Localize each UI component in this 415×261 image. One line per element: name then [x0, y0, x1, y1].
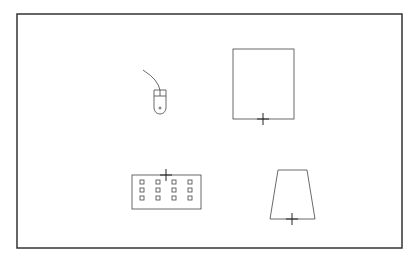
- keyboard-keys: [140, 180, 192, 200]
- diagram-canvas: [0, 0, 415, 261]
- crosshair-marker-icon: [160, 169, 172, 181]
- mouse-icon[interactable]: [143, 70, 166, 114]
- crosshair-marker-icon: [286, 213, 298, 225]
- outer-frame: [17, 14, 402, 248]
- crosshair-marker-icon: [257, 113, 269, 125]
- keyboard-icon[interactable]: [132, 169, 201, 209]
- trapezoid-shape[interactable]: [270, 170, 315, 225]
- tall-rectangle[interactable]: [233, 49, 294, 125]
